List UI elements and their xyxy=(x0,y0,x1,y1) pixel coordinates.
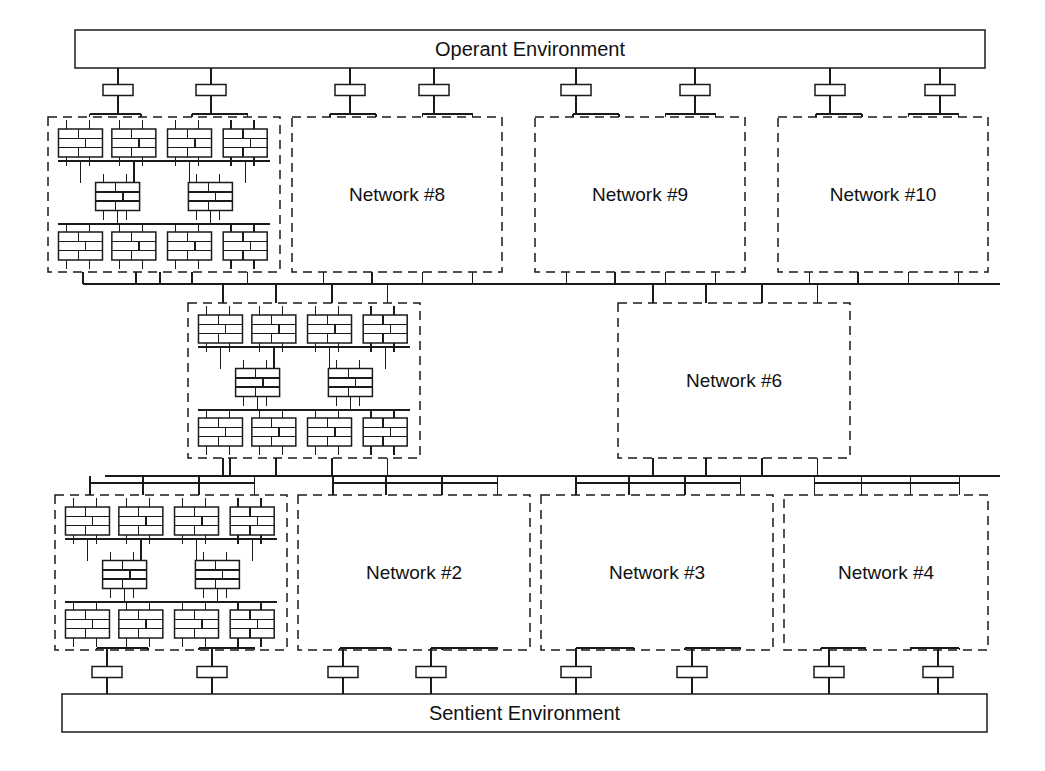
environment-port-top-2[interactable] xyxy=(335,85,365,96)
environment-port-bottom-0[interactable] xyxy=(92,667,122,678)
environment-port-bottom-5[interactable] xyxy=(677,667,707,678)
neural-module-net1-b3[interactable] xyxy=(230,610,274,638)
neural-module-net5-t1[interactable] xyxy=(252,315,296,343)
environment-label-top: Operant Environment xyxy=(435,38,625,61)
neural-module-net1-m0[interactable] xyxy=(103,561,147,589)
neural-module-net5-b2[interactable] xyxy=(308,418,352,446)
environment-label-bottom: Sentient Environment xyxy=(429,702,620,725)
environment-port-bottom-3[interactable] xyxy=(416,667,446,678)
neural-module-net1-t2[interactable] xyxy=(175,507,219,535)
neural-module-net7-b0[interactable] xyxy=(58,232,102,260)
neural-module-net7-t0[interactable] xyxy=(58,129,102,157)
neural-module-net7-m0[interactable] xyxy=(96,183,140,211)
neural-module-net7-t3[interactable] xyxy=(223,129,267,157)
neural-module-net1-b0[interactable] xyxy=(65,610,109,638)
neural-module-net1-m1[interactable] xyxy=(195,561,239,589)
environment-port-bottom-2[interactable] xyxy=(328,667,358,678)
neural-module-net5-m0[interactable] xyxy=(236,369,280,397)
environment-port-bottom-4[interactable] xyxy=(561,667,591,678)
environment-port-top-4[interactable] xyxy=(561,85,591,96)
neural-module-net5-t0[interactable] xyxy=(198,315,242,343)
environment-port-top-1[interactable] xyxy=(196,85,226,96)
environment-port-top-0[interactable] xyxy=(103,85,133,96)
environment-port-top-5[interactable] xyxy=(680,85,710,96)
environment-port-bottom-7[interactable] xyxy=(923,667,953,678)
neural-module-net7-b2[interactable] xyxy=(168,232,212,260)
network-label-net4: Network #4 xyxy=(838,562,934,584)
neural-module-net7-t2[interactable] xyxy=(168,129,212,157)
network-label-net9: Network #9 xyxy=(592,184,688,206)
network-label-net10: Network #10 xyxy=(830,184,937,206)
neural-module-net1-t1[interactable] xyxy=(119,507,163,535)
environment-port-top-3[interactable] xyxy=(419,85,449,96)
neural-module-net5-b0[interactable] xyxy=(198,418,242,446)
neural-module-net5-t3[interactable] xyxy=(363,315,407,343)
neural-module-net7-t1[interactable] xyxy=(112,129,156,157)
neural-module-net1-b2[interactable] xyxy=(175,610,219,638)
neural-module-net5-m1[interactable] xyxy=(328,369,372,397)
network-label-net2: Network #2 xyxy=(366,562,462,584)
environment-port-top-7[interactable] xyxy=(925,85,955,96)
neural-module-net1-t3[interactable] xyxy=(230,507,274,535)
environment-port-bottom-6[interactable] xyxy=(814,667,844,678)
diagram-artwork xyxy=(0,0,1045,771)
network-label-net6: Network #6 xyxy=(686,370,782,392)
neural-module-net5-b1[interactable] xyxy=(252,418,296,446)
neural-module-net1-b1[interactable] xyxy=(119,610,163,638)
neural-module-net5-t2[interactable] xyxy=(308,315,352,343)
neural-module-net5-b3[interactable] xyxy=(363,418,407,446)
neural-module-net7-b1[interactable] xyxy=(112,232,156,260)
neural-module-net7-b3[interactable] xyxy=(223,232,267,260)
network-label-net3: Network #3 xyxy=(609,562,705,584)
environment-port-bottom-1[interactable] xyxy=(197,667,227,678)
neural-module-net7-m1[interactable] xyxy=(188,183,232,211)
neural-module-net1-t0[interactable] xyxy=(65,507,109,535)
network-label-net8: Network #8 xyxy=(349,184,445,206)
environment-port-top-6[interactable] xyxy=(815,85,845,96)
diagram-canvas: Operant EnvironmentSentient EnvironmentN… xyxy=(0,0,1045,771)
